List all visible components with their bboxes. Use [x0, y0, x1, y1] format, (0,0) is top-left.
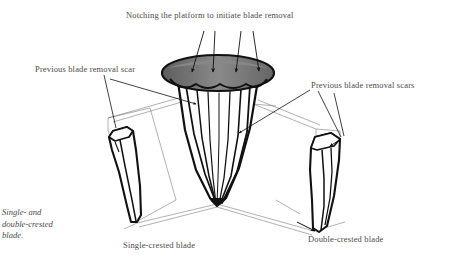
diagram-title: Notching the platform to initiate blade … — [126, 10, 294, 20]
figure-container: Notching the platform to initiate blade … — [0, 0, 449, 264]
label-double-crested-blade: Double-crested blade — [308, 234, 383, 244]
double-crested-blade-icon — [310, 133, 341, 232]
figure-caption: Single- and double-crested blade. — [2, 207, 76, 242]
conical-core-icon — [178, 74, 258, 206]
label-previous-blade-removal-scar: Previous blade removal scar — [35, 64, 135, 74]
caption-line-3: blade. — [2, 230, 76, 242]
label-single-crested-blade: Single-crested blade — [123, 240, 195, 250]
caption-line-1: Single- and — [2, 207, 76, 219]
label-previous-blade-removal-scars: Previous blade removal scars — [311, 80, 415, 90]
caption-line-2: double-crested — [2, 219, 76, 231]
single-crested-blade-icon — [109, 127, 141, 222]
